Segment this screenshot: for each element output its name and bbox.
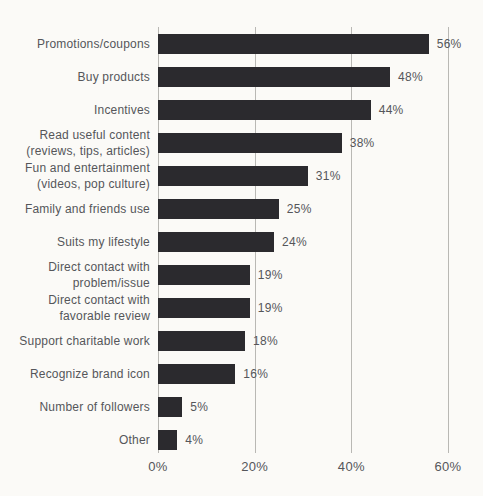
bar-value-label: 48% [398,70,423,84]
category-label: Family and friends use [4,201,150,217]
category-label: Other [4,432,150,448]
category-label: Read useful content (reviews, tips, arti… [4,127,150,159]
x-tick-label: 0% [148,459,167,474]
gridline-40% [351,27,352,453]
category-label: Buy products [4,69,150,85]
x-tick-label: 20% [241,459,268,474]
bar [158,199,279,219]
bar-value-label: 19% [258,268,283,282]
gridline-60% [448,27,449,453]
bar [158,166,308,186]
bar-value-label: 4% [185,433,203,447]
x-tick-label: 60% [435,459,462,474]
x-tick-label: 40% [338,459,365,474]
category-label: Suits my lifestyle [4,234,150,250]
bar [158,331,245,351]
category-label: Promotions/coupons [4,36,150,52]
bar-value-label: 19% [258,301,283,315]
bar [158,298,250,318]
category-label: Recognize brand icon [4,366,150,382]
category-label: Direct contact with favorable review [4,292,150,324]
bar-value-label: 56% [437,37,462,51]
category-label: Fun and entertainment (videos, pop cultu… [4,160,150,192]
bar-value-label: 25% [287,202,312,216]
bar [158,67,390,87]
bar [158,100,371,120]
bar [158,133,342,153]
category-label: Number of followers [4,399,150,415]
bar-value-label: 18% [253,334,278,348]
bar [158,430,177,450]
bar-value-label: 24% [282,235,307,249]
bar-value-label: 38% [350,136,375,150]
bar-value-label: 44% [379,103,404,117]
bar [158,232,274,252]
bar-value-label: 16% [243,367,268,381]
bar-value-label: 31% [316,169,341,183]
bar [158,364,235,384]
bar-value-label: 5% [190,400,208,414]
bar [158,34,429,54]
bar-chart: Promotions/coupons56%Buy products48%Ince… [0,0,483,496]
category-label: Incentives [4,102,150,118]
category-label: Direct contact with problem/issue [4,259,150,291]
bar [158,397,182,417]
category-label: Support charitable work [4,333,150,349]
bar [158,265,250,285]
